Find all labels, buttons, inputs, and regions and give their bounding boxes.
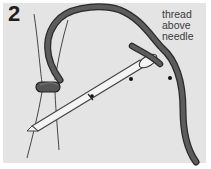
marker-dot-2	[168, 76, 172, 80]
marker-dot-1	[129, 77, 133, 81]
step-number: 2	[8, 3, 20, 25]
marker-dots	[129, 76, 172, 81]
callout-label: thread above needle	[162, 9, 194, 42]
thread-knot	[36, 82, 60, 92]
step-illustration: 2 thread above needle	[0, 0, 211, 169]
